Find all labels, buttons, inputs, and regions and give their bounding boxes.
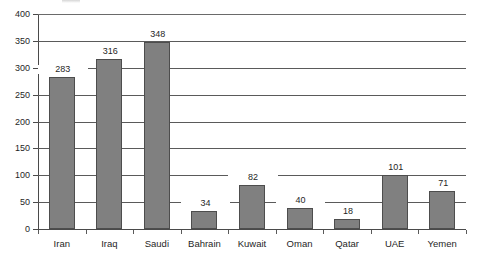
y-axis-tick-label: 350 (0, 37, 30, 46)
x-axis-tick-label: Saudi (133, 238, 181, 249)
y-axis-tick (33, 202, 38, 203)
x-axis-tick-label: Iraq (86, 238, 134, 249)
x-axis-tick-label: Oman (276, 238, 324, 249)
bar-value-label: 18 (323, 207, 373, 216)
x-axis-tick (323, 230, 324, 234)
x-axis-tick (466, 230, 467, 234)
bar-value-label: 71 (418, 179, 468, 188)
y-axis-tick-label: 200 (0, 118, 30, 127)
gridline (38, 41, 466, 42)
bar (49, 77, 75, 229)
bar-value-label: 283 (38, 65, 88, 74)
gridline (38, 14, 466, 15)
x-axis-tick-label: Yemen (418, 238, 466, 249)
x-axis-tick (181, 230, 182, 234)
bar-value-label: 40 (276, 196, 326, 205)
x-axis-tick (133, 230, 134, 234)
y-axis-tick (33, 41, 38, 42)
y-axis-tick (33, 14, 38, 15)
x-axis-tick-label: Bahrain (181, 238, 229, 249)
bar-value-label: 316 (86, 47, 136, 56)
x-axis-tick (418, 230, 419, 234)
x-axis-tick (371, 230, 372, 234)
bar (334, 219, 360, 229)
y-axis-tick (33, 95, 38, 96)
x-axis-tick-label: Iran (38, 238, 86, 249)
bar (429, 191, 455, 229)
bar (287, 208, 313, 230)
y-axis-tick (33, 175, 38, 176)
bar (191, 211, 217, 229)
x-axis-tick (86, 230, 87, 234)
x-axis-tick (276, 230, 277, 234)
bar (239, 185, 265, 229)
x-axis-tick (38, 230, 39, 234)
y-axis-tick (33, 122, 38, 123)
x-axis-tick-label: Qatar (323, 238, 371, 249)
y-axis-tick-label: 300 (0, 64, 30, 73)
bar (144, 42, 170, 229)
bar-value-label: 101 (371, 163, 421, 172)
bar (96, 59, 122, 229)
y-axis-tick (33, 148, 38, 149)
x-axis-tick-label: UAE (371, 238, 419, 249)
x-axis-tick-label: Kuwait (228, 238, 276, 249)
x-axis-tick (228, 230, 229, 234)
bar (382, 175, 408, 229)
bar-value-label: 82 (228, 173, 278, 182)
y-axis-tick-label: 100 (0, 171, 30, 180)
cropped-title-artifact (62, 0, 80, 3)
bar-chart: 050100150200250300350400 IranIraqSaudiBa… (0, 0, 480, 260)
y-axis-tick-label: 250 (0, 91, 30, 100)
y-axis-tick-label: 400 (0, 10, 30, 19)
y-axis-tick-label: 0 (0, 225, 30, 234)
y-axis-tick-label: 150 (0, 144, 30, 153)
x-axis-line (38, 229, 466, 230)
bar-value-label: 34 (181, 199, 231, 208)
y-axis-tick-label: 50 (0, 198, 30, 207)
bar-value-label: 348 (133, 30, 183, 39)
